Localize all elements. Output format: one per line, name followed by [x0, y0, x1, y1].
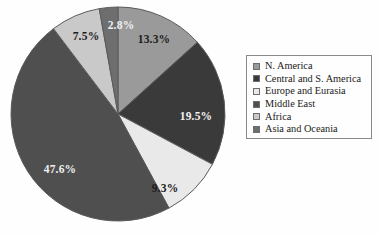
legend-item[interactable]: Asia and Oceania: [253, 123, 366, 136]
legend-item[interactable]: Africa: [253, 110, 366, 123]
pie-chart-plot-area: 13.3%19.5%9.3%47.6%7.5%2.8%: [10, 6, 226, 222]
legend-item-label: Central and S. America: [265, 74, 361, 84]
pie-slice-value-label: 13.3%: [138, 33, 171, 45]
legend-color-swatch-icon: [253, 63, 260, 70]
legend-item-label: Africa: [265, 112, 291, 122]
legend-item[interactable]: Middle East: [253, 98, 366, 111]
legend-item-label: Asia and Oceania: [265, 124, 338, 134]
legend-item-label: Europe and Eurasia: [265, 86, 346, 96]
pie-slice-value-label: 19.5%: [180, 110, 213, 122]
legend-item-label: Middle East: [265, 99, 315, 109]
legend-color-swatch-icon: [253, 75, 260, 82]
legend-item[interactable]: N. America: [253, 60, 366, 73]
pie-slice-value-label: 47.6%: [44, 163, 77, 175]
pie-slice-value-label: 9.3%: [152, 182, 179, 194]
legend-item[interactable]: Europe and Eurasia: [253, 85, 366, 98]
pie-slice-value-label: 2.8%: [108, 19, 135, 31]
legend-color-swatch-icon: [253, 126, 260, 133]
legend-item[interactable]: Central and S. America: [253, 73, 366, 86]
pie-chart-figure: 13.3%19.5%9.3%47.6%7.5%2.8% N. AmericaCe…: [0, 0, 380, 236]
legend-color-swatch-icon: [253, 88, 260, 95]
pie-chart-svg: 13.3%19.5%9.3%47.6%7.5%2.8%: [10, 6, 226, 222]
chart-legend: N. AmericaCentral and S. AmericaEurope a…: [246, 55, 372, 139]
legend-color-swatch-icon: [253, 113, 260, 120]
legend-item-label: N. America: [265, 61, 312, 71]
legend-color-swatch-icon: [253, 101, 260, 108]
pie-slice-value-label: 7.5%: [73, 30, 100, 42]
